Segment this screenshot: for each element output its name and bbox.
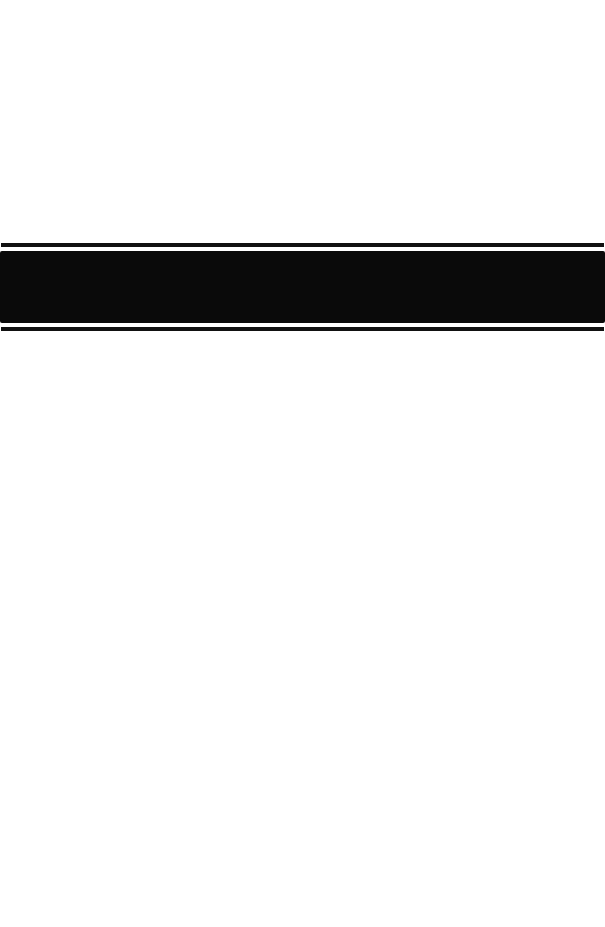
horizontal-band-group — [0, 243, 605, 331]
bottom-rule-line — [1, 327, 604, 331]
black-band — [0, 251, 605, 323]
blank-page — [0, 0, 605, 927]
top-rule-line — [1, 243, 604, 247]
